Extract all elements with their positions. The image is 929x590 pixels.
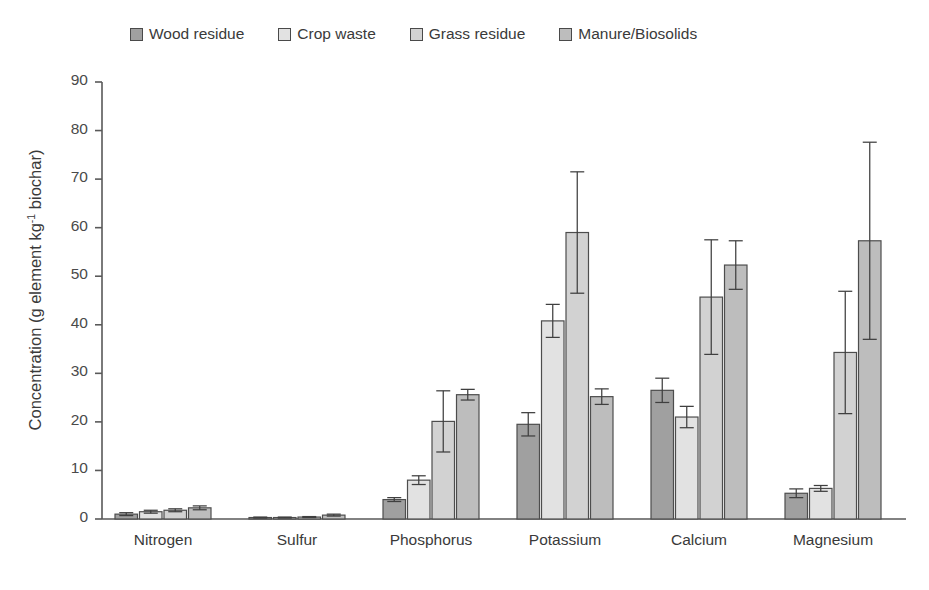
error-bar [253, 517, 267, 518]
y-tick-label: 40 [54, 314, 88, 332]
bar [517, 424, 540, 519]
y-tick-label: 30 [54, 362, 88, 380]
bar [542, 321, 565, 519]
plot-area [0, 0, 929, 590]
bar [676, 417, 699, 519]
y-tick-label: 80 [54, 120, 88, 138]
bar [810, 488, 833, 519]
y-tick-label: 50 [54, 265, 88, 283]
bar [651, 390, 674, 519]
y-tick-label: 0 [54, 508, 88, 526]
y-tick-label: 60 [54, 217, 88, 235]
bar [725, 265, 748, 519]
bar [383, 500, 406, 519]
y-tick-label: 70 [54, 168, 88, 186]
error-bar [278, 517, 292, 518]
x-tick-label: Magnesium [751, 531, 915, 549]
bar [457, 395, 480, 519]
error-bar [302, 517, 316, 518]
bar [408, 480, 431, 519]
bar-chart-figure: Wood residue Crop waste Grass residue Ma… [0, 0, 929, 590]
y-tick-label: 10 [54, 459, 88, 477]
y-tick-label: 90 [54, 71, 88, 89]
bar [591, 397, 614, 519]
y-tick-label: 20 [54, 411, 88, 429]
